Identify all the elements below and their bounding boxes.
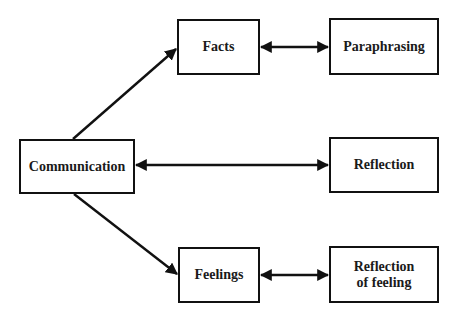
- node-reflection-of-feeling: Reflection of feeling: [329, 246, 439, 303]
- arrow-communication-to-feelings: [74, 194, 177, 274]
- node-label: Reflection of feeling: [354, 259, 415, 291]
- node-feelings: Feelings: [178, 247, 260, 303]
- arrow-communication-to-facts: [73, 49, 176, 139]
- diagram-canvas: Communication Facts Feelings Paraphrasin…: [0, 0, 457, 319]
- node-facts: Facts: [177, 19, 260, 75]
- node-label: Feelings: [195, 267, 244, 283]
- node-label: Reflection: [354, 157, 415, 173]
- node-label: Communication: [29, 159, 125, 175]
- node-label: Facts: [203, 39, 235, 55]
- node-communication: Communication: [19, 139, 135, 194]
- node-reflection: Reflection: [329, 137, 439, 193]
- node-label: Paraphrasing: [343, 39, 425, 55]
- node-paraphrasing: Paraphrasing: [329, 18, 439, 75]
